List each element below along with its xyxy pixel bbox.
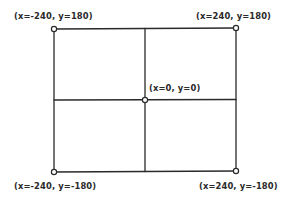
coordinate-grid-diagram — [0, 0, 292, 205]
label-top-right: (x=240, y=180) — [196, 11, 271, 21]
point-top-right-marker — [233, 25, 238, 30]
point-top-left-marker — [51, 26, 56, 31]
label-bottom-left: (x=-240, y=-180) — [14, 181, 96, 191]
label-center: (x=0, y=0) — [149, 83, 200, 93]
label-top-left: (x=-240, y=180) — [14, 11, 93, 21]
point-center-marker — [142, 97, 147, 102]
label-bottom-right: (x=240, y=-180) — [199, 181, 278, 191]
point-bottom-right-marker — [233, 168, 238, 173]
point-bottom-left-marker — [51, 169, 56, 174]
